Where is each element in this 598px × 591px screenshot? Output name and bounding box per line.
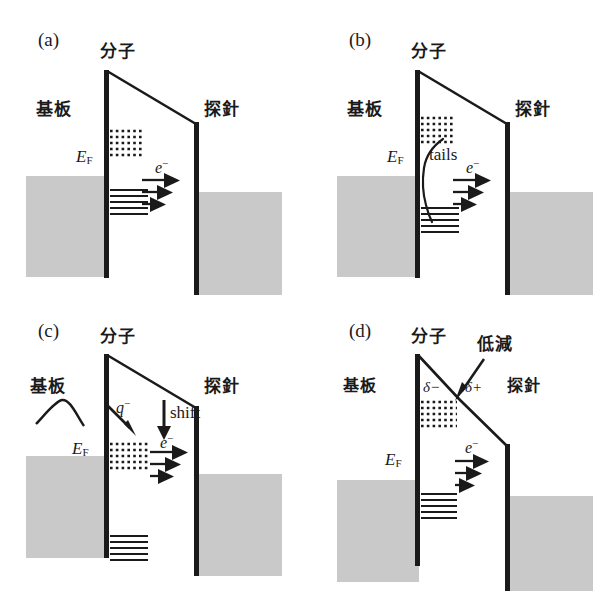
substrate-occupied-band [26,456,108,558]
substrate-electrode-bar [104,354,109,558]
label-electron-c: e− [160,433,173,451]
fermi-subscript: F [86,154,92,166]
label-fermi-c: EF [72,440,89,458]
molecular-level-solid-group [421,494,457,518]
molecular-level-dotted-group [110,131,143,155]
substrate-electrode-bar [415,70,420,278]
fermi-subscript: F [395,457,401,469]
panel-c: (c) 分子 基板 探針 q− shift EF e− [0,296,299,591]
fermi-symbol: E [385,450,395,469]
tunnel-arrow [150,469,174,484]
molecular-level-solid-group [110,536,148,560]
label-fermi-d: EF [385,451,402,469]
vacuum-barrier-line-kinked [418,355,507,446]
substrate-occupied-band [26,176,108,277]
label-electron-a: e− [155,158,168,176]
substrate-pointer-curve [36,400,84,426]
tunnel-arrow [455,478,475,493]
label-tip-b: 探針 [515,101,550,118]
label-electron-d: e− [465,438,478,456]
substrate-occupied-band [337,176,419,277]
tip-occupied-band [509,192,593,295]
electron-superscript: − [472,437,478,449]
tunnel-arrow [142,197,166,212]
panel-tag-a: (a) [38,30,59,49]
molecular-level-dotted-group [421,118,454,142]
label-fermi-b: EF [387,148,404,166]
tip-occupied-band [198,474,282,576]
label-fermi-a: EF [76,148,93,166]
substrate-occupied-band [337,480,419,582]
panel-a: (a) 分子 基板 探針 EF e− [0,0,299,295]
label-substrate-a: 基板 [36,101,71,118]
panel-tag-d: (d) [349,321,371,340]
tunnel-arrow [150,457,181,472]
fermi-subscript: F [82,446,88,458]
tip-electrode-bar [194,406,199,576]
panel-tag-c: (c) [38,321,59,340]
tip-electrode-bar [505,122,510,295]
tip-occupied-band [198,192,282,295]
tunnel-arrow-group [142,173,180,212]
label-reduction-d: 低減 [477,336,512,353]
label-tip-d: 探針 [507,378,540,394]
tip-occupied-band [509,496,593,591]
tip-electrode-bar [505,444,510,591]
vacuum-barrier-line [107,71,196,124]
charge-symbol: q [116,399,124,416]
electron-superscript: − [473,157,479,169]
label-molecule-b: 分子 [411,43,446,60]
fermi-subscript: F [397,154,403,166]
label-shift-c: shift [170,404,200,421]
label-charge-c: q− [116,398,130,416]
label-molecule-c: 分子 [100,328,135,345]
panel-d-diagram [299,296,598,591]
label-tip-c: 探針 [204,378,239,395]
label-substrate-b: 基板 [347,101,382,118]
fermi-symbol: E [72,439,82,458]
panel-b: (b) 分子 基板 探針 EF tails e− [299,0,598,295]
tunnel-arrow-group [453,173,491,212]
panel-d: (d) 分子 低減 基板 δ− δ+ 探針 EF e− [299,296,598,591]
molecular-level-dotted-group [421,402,457,426]
tunnel-arrow [142,185,173,200]
charge-superscript: − [124,397,130,409]
tunnel-arrow [453,197,477,212]
molecular-level-solid-group [421,208,459,232]
substrate-electrode-bar [104,70,109,278]
electron-superscript: − [162,157,168,169]
label-delta-minus-d: δ− [423,380,440,395]
fermi-symbol: E [76,147,86,166]
fermi-symbol: E [387,147,397,166]
figure-canvas: (a) 分子 基板 探針 EF e− [0,0,598,591]
label-electron-b: e− [466,158,479,176]
molecular-level-solid-group [110,190,148,214]
label-tails-b: tails [429,146,457,163]
panel-tag-b: (b) [349,30,371,49]
molecular-level-dotted-group [110,444,148,468]
label-tip-a: 探針 [204,101,239,118]
label-substrate-d: 基板 [343,378,376,394]
label-substrate-c: 基板 [30,378,65,395]
vacuum-barrier-line [418,71,507,124]
tunnel-arrow-group [455,454,489,493]
tunnel-arrow [453,185,484,200]
electron-superscript: − [167,432,173,444]
label-molecule-d: 分子 [411,328,446,345]
tip-electrode-bar [194,122,199,295]
label-delta-plus-d: δ+ [465,380,482,395]
substrate-electrode-bar [415,354,420,566]
label-molecule-a: 分子 [100,43,135,60]
